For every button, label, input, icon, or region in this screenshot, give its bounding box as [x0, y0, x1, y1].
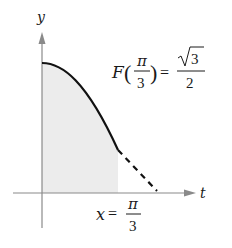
- arg-denominator: 3: [137, 75, 145, 91]
- curve-dashed: [118, 150, 157, 191]
- svg-text:x: x: [96, 205, 105, 224]
- svg-text:(: (: [124, 60, 131, 85]
- svg-text:=: =: [108, 205, 117, 222]
- arg-numerator: π: [136, 52, 148, 70]
- bound-denominator: 3: [129, 218, 137, 234]
- integral-diagram: y t F ( π 3 ) = 3 2 x = π 3: [0, 0, 232, 248]
- radicand: 3: [191, 51, 199, 67]
- svg-text:=: =: [160, 64, 169, 81]
- svg-text:F: F: [111, 62, 125, 82]
- t-axis-arrow-icon: [184, 190, 196, 197]
- y-axis-arrow-icon: [39, 32, 46, 44]
- value-denominator: 2: [186, 75, 194, 91]
- function-value-label: F ( π 3 ) = 3 2: [111, 47, 205, 91]
- svg-text:): ): [150, 60, 157, 85]
- bound-numerator: π: [127, 195, 139, 213]
- y-axis-label: y: [36, 9, 46, 25]
- bound-label: x = π 3: [96, 195, 141, 234]
- t-axis-label: t: [200, 185, 206, 201]
